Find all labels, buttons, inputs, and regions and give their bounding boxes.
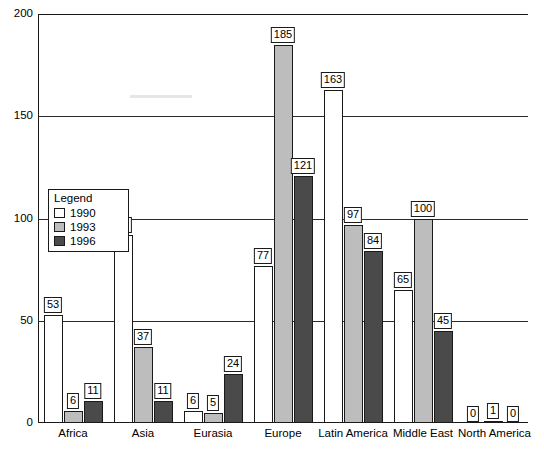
legend-title: Legend xyxy=(54,192,124,204)
legend-swatch-1990 xyxy=(54,208,65,218)
legend-item-1990: 1990 xyxy=(54,206,124,220)
y-tick-label: 50 xyxy=(2,314,33,326)
legend-label-1996: 1996 xyxy=(70,235,96,247)
data-label: 84 xyxy=(364,233,382,249)
bar-eurasia-1990: 6 xyxy=(184,411,203,423)
bar-group: 6510045 xyxy=(388,14,458,423)
bar-middle-east-1996: 45 xyxy=(434,331,453,423)
data-label: 163 xyxy=(321,72,345,88)
x-tick-label: Africa xyxy=(38,427,108,439)
bar-group: 6524 xyxy=(178,14,248,423)
data-label: 1 xyxy=(487,403,499,419)
data-label: 24 xyxy=(224,356,242,372)
bar-latin-america-1993: 97 xyxy=(344,225,363,423)
data-label: 5 xyxy=(207,395,219,411)
bar-middle-east-1993: 100 xyxy=(414,219,433,424)
y-tick-label: 150 xyxy=(2,109,33,121)
data-label: 53 xyxy=(44,297,62,313)
legend-swatch-1993 xyxy=(54,222,65,232)
bar-africa-1993: 6 xyxy=(64,411,83,423)
bar-europe-1996: 121 xyxy=(294,176,313,423)
bars: 6524 xyxy=(178,14,248,423)
x-tick-label: Europe xyxy=(248,427,318,439)
data-label: 185 xyxy=(271,27,295,43)
data-label: 45 xyxy=(434,313,452,329)
legend-rows: 199019931996 xyxy=(54,206,124,248)
legend-item-1996: 1996 xyxy=(54,234,124,248)
legend: Legend 199019931996 xyxy=(48,189,129,252)
data-label: 0 xyxy=(467,406,479,422)
bars: 010 xyxy=(458,14,528,423)
y-tick-label: 200 xyxy=(2,7,33,19)
y-tick-label: 0 xyxy=(2,416,33,428)
data-label: 77 xyxy=(254,248,272,264)
data-label: 6 xyxy=(67,393,79,409)
bar-group: 1639784 xyxy=(318,14,388,423)
data-label: 0 xyxy=(507,406,519,422)
bar-chart: 050100150200 536119237116524771851211639… xyxy=(0,0,544,465)
x-tick-label: Middle East xyxy=(388,427,458,439)
legend-swatch-1996 xyxy=(54,236,65,246)
data-label: 97 xyxy=(344,207,362,223)
x-tick-label: Latin America xyxy=(318,427,388,439)
legend-label-1993: 1993 xyxy=(70,221,96,233)
bar-eurasia-1993: 5 xyxy=(204,413,223,423)
bar-latin-america-1996: 84 xyxy=(364,251,383,423)
bar-asia-1993: 37 xyxy=(134,347,153,423)
data-label: 37 xyxy=(134,329,152,345)
bar-europe-1990: 77 xyxy=(254,266,273,423)
data-label: 11 xyxy=(84,383,101,399)
x-tick-label: North America xyxy=(458,427,528,439)
bar-africa-1990: 53 xyxy=(44,315,63,423)
x-tick-label: Eurasia xyxy=(178,427,248,439)
bar-asia-1990: 92 xyxy=(114,235,133,423)
bars: 6510045 xyxy=(388,14,458,423)
bar-eurasia-1996: 24 xyxy=(224,374,243,423)
bar-asia-1996: 11 xyxy=(154,401,173,423)
y-tick-label: 100 xyxy=(2,212,33,224)
x-tick-label: Asia xyxy=(108,427,178,439)
bar-middle-east-1990: 65 xyxy=(394,290,413,423)
data-label: 11 xyxy=(154,383,171,399)
data-label: 65 xyxy=(394,272,412,288)
data-label: 100 xyxy=(411,201,435,217)
bar-latin-america-1990: 163 xyxy=(324,90,343,423)
data-label: 6 xyxy=(187,393,199,409)
bar-group: 77185121 xyxy=(248,14,318,423)
bar-africa-1996: 11 xyxy=(84,401,103,423)
legend-label-1990: 1990 xyxy=(70,207,96,219)
bars: 1639784 xyxy=(318,14,388,423)
legend-item-1993: 1993 xyxy=(54,220,124,234)
bar-europe-1993: 185 xyxy=(274,45,293,423)
bars: 77185121 xyxy=(248,14,318,423)
data-label: 121 xyxy=(291,158,315,174)
bar-north-america-1993: 1 xyxy=(484,421,503,423)
bar-group: 010 xyxy=(458,14,528,423)
